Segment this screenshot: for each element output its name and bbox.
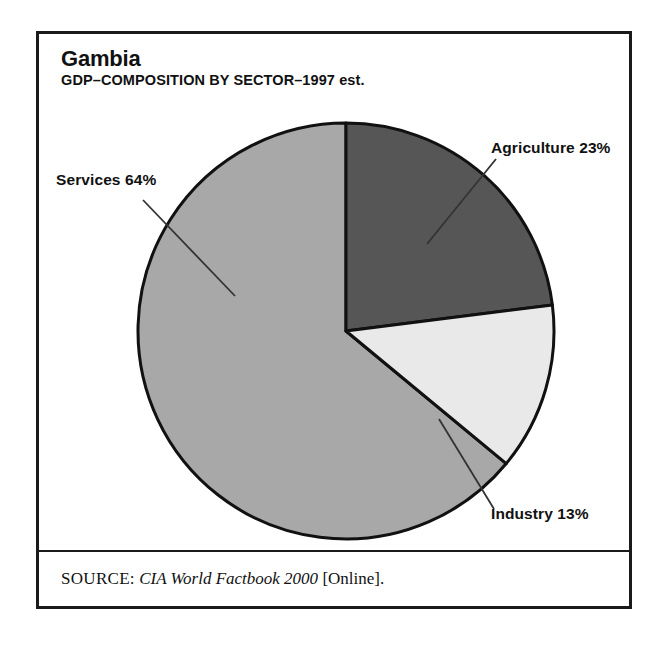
source-title: CIA World Factbook 2000 [139, 569, 318, 588]
figure-frame: Gambia GDP–COMPOSITION BY SECTOR–1997 es… [36, 31, 632, 609]
pie-chart-area: Gambia GDP–COMPOSITION BY SECTOR–1997 es… [39, 34, 629, 606]
pie-label-agriculture: Agriculture 23% [491, 139, 611, 157]
source-label: SOURCE: [61, 569, 135, 588]
pie-label-industry: Industry 13% [491, 505, 589, 523]
source-suffix: [Online]. [322, 569, 384, 588]
source-line: SOURCE: CIA World Factbook 2000 [Online]… [61, 569, 384, 589]
pie-label-services: Services 64% [56, 171, 156, 189]
source-divider [39, 550, 629, 552]
